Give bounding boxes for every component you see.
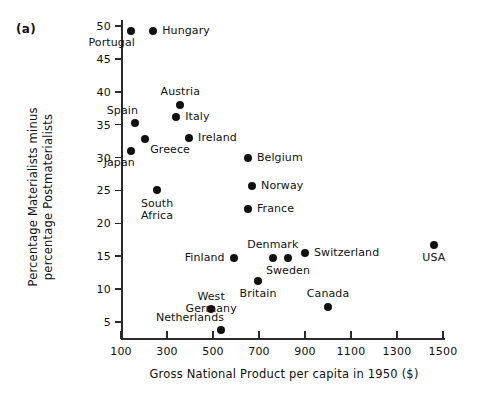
data-point[interactable] — [230, 254, 238, 262]
data-point-label: Finland — [185, 252, 225, 265]
data-point[interactable] — [131, 119, 139, 127]
data-point-label: Portugal — [89, 36, 135, 49]
y-tick-label: 35 — [97, 118, 111, 131]
data-point[interactable] — [254, 277, 262, 285]
x-tick-label: 700 — [248, 345, 270, 358]
data-point-label: Ireland — [198, 132, 237, 145]
data-point[interactable] — [244, 154, 252, 162]
data-point-label: USA — [422, 252, 445, 265]
data-point[interactable] — [284, 254, 292, 262]
scatter-plot-figure: (a) 5101520253035404550 1003005007009001… — [0, 0, 477, 399]
data-point[interactable] — [324, 303, 332, 311]
data-point-label: Switzerland — [314, 247, 379, 260]
data-point[interactable] — [269, 254, 277, 262]
y-tick-label: 20 — [97, 217, 111, 230]
y-tick-label: 40 — [97, 85, 111, 98]
data-point[interactable] — [149, 27, 157, 35]
data-point[interactable] — [430, 241, 438, 249]
x-tick-label: 900 — [294, 345, 316, 358]
data-point[interactable] — [185, 134, 193, 142]
data-point[interactable] — [301, 249, 309, 257]
data-point-label: Japan — [104, 157, 135, 170]
y-tick-label: 25 — [97, 184, 111, 197]
y-axis-title-line1: Percentage Materialists minus — [26, 72, 41, 322]
y-tick-label: 15 — [97, 250, 111, 263]
y-tick-label: 5 — [104, 316, 111, 329]
x-tick-label: 1300 — [383, 345, 412, 358]
data-point-label: Greece — [150, 144, 190, 157]
data-point-label: Canada — [307, 288, 349, 301]
data-point-label: Hungary — [162, 25, 210, 38]
data-point-label: France — [257, 203, 294, 216]
y-tick-label: 45 — [97, 52, 111, 65]
y-axis-title-line2: percentage Postmaterialists — [41, 72, 56, 322]
data-point[interactable] — [217, 326, 225, 334]
data-point[interactable] — [248, 182, 256, 190]
data-point-label: Belgium — [257, 151, 303, 164]
x-tick-label: 1100 — [337, 345, 366, 358]
data-point-label: Denmark — [247, 239, 298, 252]
data-point[interactable] — [141, 135, 149, 143]
x-tick-label: 100 — [110, 345, 132, 358]
data-point[interactable] — [172, 113, 180, 121]
data-point-label: Netherlands — [156, 312, 224, 325]
data-point[interactable] — [127, 27, 135, 35]
data-point-label: Austria — [161, 86, 201, 99]
x-tick-label: 1500 — [429, 345, 458, 358]
data-point[interactable] — [244, 205, 252, 213]
data-point-label: Italy — [185, 111, 209, 124]
data-point-label: Spain — [107, 105, 138, 118]
data-point-label: Sweden — [266, 265, 310, 278]
x-axis-title: Gross National Product per capita in 195… — [119, 367, 449, 381]
y-tick-label: 50 — [97, 20, 111, 33]
x-tick-label: 300 — [156, 345, 178, 358]
x-tick-label: 500 — [202, 345, 224, 358]
y-axis-title: Percentage Materialists minus percentage… — [26, 72, 56, 322]
y-tick-label: 10 — [97, 283, 111, 296]
panel-label: (a) — [16, 22, 36, 36]
data-point-label: SouthAfrica — [126, 198, 188, 223]
data-point[interactable] — [127, 147, 135, 155]
data-point[interactable] — [176, 101, 184, 109]
data-point-label: Norway — [261, 180, 303, 193]
data-point[interactable] — [153, 186, 161, 194]
data-point-label: Britain — [240, 288, 277, 301]
